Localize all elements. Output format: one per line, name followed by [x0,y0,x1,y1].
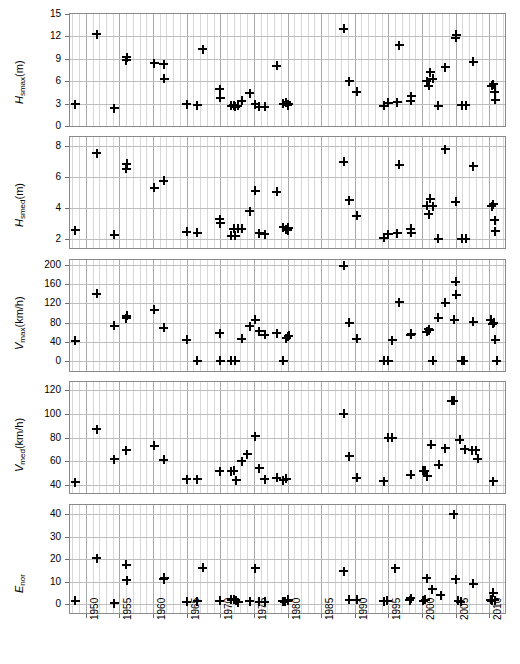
axis-title-subscript: smed [18,199,27,219]
y-tick-mark [65,559,69,560]
gridline-minor-vertical [482,137,483,248]
y-tick-mark [65,208,69,209]
gridline-minor-vertical [314,137,315,248]
y-tick-label: 120 [25,298,61,308]
gridline-horizontal [70,265,505,266]
gridline-major-vertical [254,260,255,371]
y-tick-label: 3 [25,99,61,109]
gridline-minor-vertical [503,137,504,248]
x-tick-label: 1980 [292,598,302,620]
gridline-minor-vertical [429,260,430,371]
y-tick-label: 2 [25,234,61,244]
y-tick-label: 15 [25,9,61,19]
gridline-major-vertical [86,137,87,248]
gridline-horizontal [70,104,505,105]
y-tick-mark [65,265,69,266]
y-tick-label: 80 [25,433,61,443]
gridline-minor-vertical [382,137,383,248]
gridline-minor-vertical [173,260,174,371]
gridline-horizontal [70,146,505,147]
gridline-minor-vertical [133,260,134,371]
gridline-minor-vertical [106,137,107,248]
gridline-minor-vertical [166,137,167,248]
plot-area-hsmax [69,13,506,127]
y-axis-title-hsmed: Hsmed(m) [14,182,26,226]
gridline-horizontal [70,361,505,362]
gridline-minor-vertical [140,260,141,371]
gridline-minor-vertical [193,137,194,248]
gridline-major-vertical [187,260,188,371]
y-tick-label: 9 [25,54,61,64]
gridline-minor-vertical [402,137,403,248]
data-point [490,87,499,96]
gridline-minor-vertical [402,260,403,371]
data-point [284,331,293,340]
gridline-minor-vertical [308,137,309,248]
gridline-minor-vertical [133,14,134,126]
gridline-horizontal [70,303,505,304]
y-tick-label: 6 [25,76,61,86]
gridline-minor-vertical [294,14,295,126]
axis-title-subscript: smax [18,77,27,96]
gridline-minor-vertical [113,14,114,126]
gridline-minor-vertical [368,14,369,126]
data-point [237,224,246,233]
data-point [234,598,243,607]
gridline-minor-vertical [160,137,161,248]
gridline-minor-vertical [375,260,376,371]
gridline-minor-vertical [429,14,430,126]
y-tick-label: 30 [25,532,61,542]
data-point [251,432,260,441]
gridline-minor-vertical [140,14,141,126]
gridline-minor-vertical [99,137,100,248]
plot-area-hsmed [69,136,506,249]
x-tick-label: 1960 [157,598,167,620]
x-tick-label: 1955 [123,598,133,620]
gridline-minor-vertical [442,14,443,126]
y-tick-mark [65,390,69,391]
gridline-horizontal [70,559,505,560]
data-point [282,225,291,234]
gridline-minor-vertical [274,137,275,248]
y-tick-label: 10 [25,577,61,587]
data-point [282,98,291,107]
gridline-major-vertical [220,260,221,371]
gridline-minor-vertical [227,137,228,248]
gridline-minor-vertical [294,260,295,371]
data-point [150,59,159,68]
x-tick-mark [220,614,221,618]
x-tick-mark [388,614,389,618]
y-tick-mark [65,284,69,285]
y-tick-label: 160 [25,279,61,289]
gridline-minor-vertical [415,14,416,126]
gridline-major-vertical [456,260,457,371]
gridline-minor-vertical [93,260,94,371]
axis-title-symbol: H [13,96,25,104]
gridline-minor-vertical [435,137,436,248]
x-tick-label: 1975 [258,598,268,620]
y-tick-label: 40 [25,480,61,490]
gridline-horizontal [70,438,505,439]
gridline-horizontal [70,582,505,583]
gridline-major-vertical [321,137,322,248]
gridline-minor-vertical [449,137,450,248]
data-point [345,452,354,461]
gridline-horizontal [70,514,505,515]
y-tick-label: 20 [25,554,61,564]
gridline-minor-vertical [301,14,302,126]
gridline-minor-vertical [200,260,201,371]
gridline-minor-vertical [200,137,201,248]
y-tick-label: 12 [25,31,61,41]
axis-title-subscript: med [18,449,27,465]
gridline-minor-vertical [462,137,463,248]
y-tick-mark [65,81,69,82]
gridline-minor-vertical [368,137,369,248]
gridline-minor-vertical [308,260,309,371]
y-tick-mark [65,342,69,343]
gridline-minor-vertical [160,14,161,126]
gridline-minor-vertical [382,14,383,126]
x-tick-mark [86,614,87,618]
gridline-major-vertical [355,260,356,371]
gridline-major-vertical [288,14,289,126]
y-tick-mark [65,126,69,127]
